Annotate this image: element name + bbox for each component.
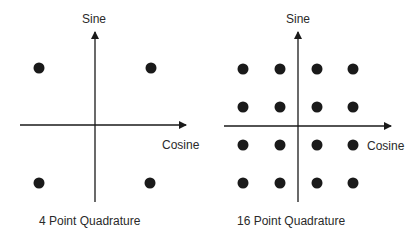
point [34, 63, 45, 74]
point [275, 178, 286, 189]
cosine-label: Cosine [367, 139, 404, 153]
caption-4-point: 4 Point Quadrature [39, 214, 140, 228]
point [312, 64, 323, 75]
point [275, 102, 286, 113]
point [348, 178, 359, 189]
point [275, 140, 286, 151]
point [238, 178, 249, 189]
sixteen-point-diagram [224, 32, 391, 202]
point [238, 64, 249, 75]
point [312, 178, 323, 189]
sine-label: Sine [286, 12, 310, 26]
point [348, 102, 359, 113]
point [238, 140, 249, 151]
point [312, 102, 323, 113]
constellation-diagrams [0, 0, 419, 238]
point [275, 64, 286, 75]
cosine-label: Cosine [162, 138, 199, 152]
point [348, 140, 359, 151]
point [238, 102, 249, 113]
four-point-diagram [20, 32, 186, 202]
point [34, 178, 45, 189]
sine-label: Sine [82, 12, 106, 26]
point [145, 178, 156, 189]
caption-16-point: 16 Point Quadrature [237, 214, 345, 228]
point [348, 64, 359, 75]
point [146, 63, 157, 74]
point [312, 140, 323, 151]
